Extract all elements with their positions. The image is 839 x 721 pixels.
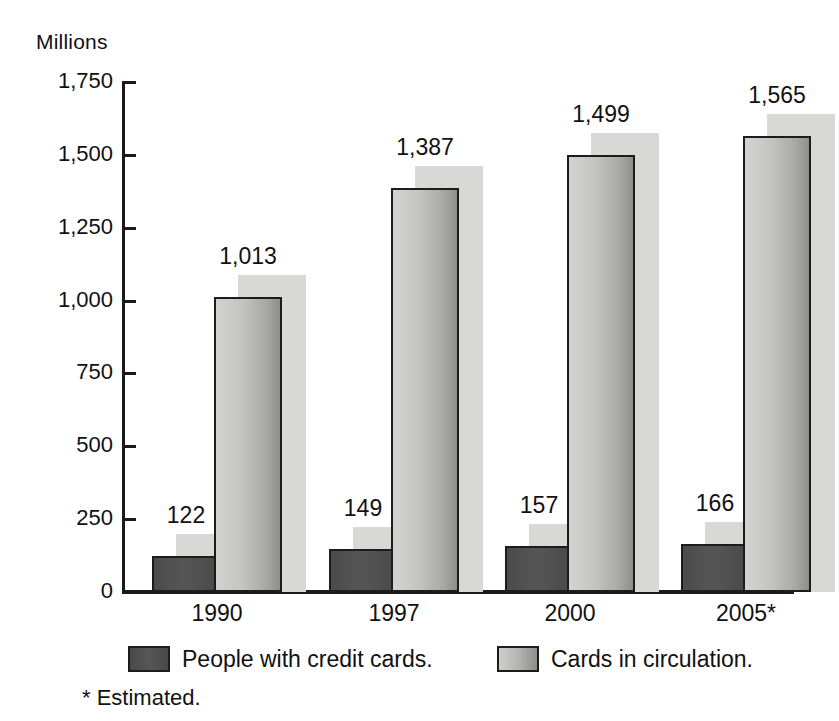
legend: People with credit cards. Cards in circu… (0, 643, 803, 677)
legend-item-people[interactable]: People with credit cards. (128, 643, 433, 675)
y-tick-mark (122, 591, 136, 594)
bar-value-label: 1,565 (707, 84, 839, 107)
bar-value-label: 1,013 (178, 245, 318, 268)
y-tick-label: 1,500 (3, 143, 113, 165)
bar-value-label: 1,499 (531, 103, 671, 126)
bar-cards-1990[interactable] (214, 297, 282, 592)
y-tick-label: 750 (3, 361, 113, 383)
bar-cards-2000[interactable] (567, 155, 635, 592)
y-tick-label: 1,250 (3, 216, 113, 238)
legend-swatch-cards-icon (497, 646, 539, 672)
bar-cards-1997[interactable] (391, 188, 459, 592)
y-tick-mark (122, 154, 136, 157)
bar-cards-2005[interactable] (743, 136, 811, 592)
legend-item-cards[interactable]: Cards in circulation. (497, 643, 753, 675)
legend-swatch-people-icon (128, 646, 170, 672)
y-tick-mark (122, 227, 136, 230)
bar-people-2000[interactable] (505, 546, 573, 592)
y-tick-label: 1,750 (3, 70, 113, 92)
legend-label-cards: Cards in circulation. (551, 646, 753, 672)
footnote: * Estimated. (82, 686, 201, 710)
bar-people-2005[interactable] (681, 544, 749, 592)
y-tick-mark (122, 445, 136, 448)
bar-people-1990[interactable] (152, 556, 220, 592)
y-tick-mark (122, 81, 136, 84)
legend-label-people: People with credit cards. (182, 646, 433, 672)
y-tick-mark (122, 300, 136, 303)
y-tick-label: 0 (3, 580, 113, 602)
y-axis-title: Millions (36, 30, 108, 54)
bar-value-label: 1,387 (355, 136, 495, 159)
y-tick-label: 250 (3, 507, 113, 529)
x-axis-label-2005: 2005* (641, 600, 839, 626)
y-tick-label: 1,000 (3, 289, 113, 311)
bar-people-1997[interactable] (329, 549, 397, 592)
y-tick-label: 500 (3, 434, 113, 456)
y-tick-mark (122, 372, 136, 375)
